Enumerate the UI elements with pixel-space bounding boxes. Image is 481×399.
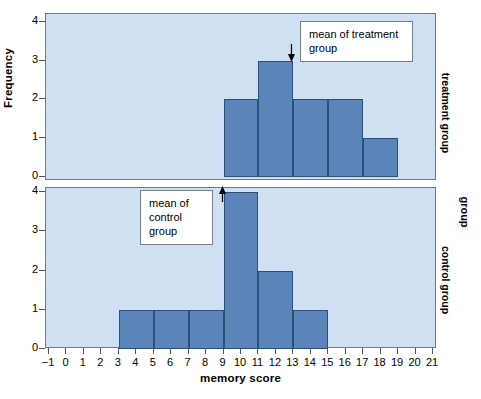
histogram-bar — [189, 310, 224, 349]
x-axis-tick-mark — [83, 348, 84, 354]
y-axis-tick-label: 1 — [12, 302, 38, 314]
panel-control-group — [45, 187, 436, 348]
y-axis-tick-label: 1 — [12, 130, 38, 142]
y-axis-tick-label: 3 — [12, 223, 38, 235]
x-axis-tick-mark — [65, 348, 66, 354]
x-axis-tick-mark — [327, 348, 328, 354]
facet-axis-title: group — [455, 182, 471, 242]
y-axis-tick-label: 2 — [12, 91, 38, 103]
x-axis-tick-mark — [118, 348, 119, 354]
histogram-bar — [363, 138, 398, 177]
x-axis-tick-mark — [362, 348, 363, 354]
panel-control-bars — [46, 188, 435, 347]
x-axis-tick-mark — [223, 348, 224, 354]
y-axis-tick-label: 3 — [12, 53, 38, 65]
histogram-bar — [258, 61, 293, 177]
x-axis-tick-mark — [100, 348, 101, 354]
x-axis-tick-mark — [240, 348, 241, 354]
y-axis-tick-label: 4 — [12, 184, 38, 196]
y-axis-tick-mark — [39, 230, 45, 231]
arrow-up-icon-control-mean — [218, 186, 227, 202]
y-axis-tick-mark — [39, 309, 45, 310]
histogram-bar — [224, 192, 259, 349]
histogram-bar — [154, 310, 189, 349]
histogram-bar — [293, 310, 328, 349]
x-axis-tick-mark — [257, 348, 258, 354]
histogram-bar — [258, 271, 293, 349]
x-axis-tick-mark — [170, 348, 171, 354]
histogram-figure: Frequency memory score group 0123401234−… — [0, 0, 481, 399]
x-axis-tick-mark — [432, 348, 433, 354]
strip-label-control: control group — [438, 235, 452, 325]
y-axis-tick-mark — [39, 270, 45, 271]
y-axis-tick-mark — [39, 60, 45, 61]
histogram-bar — [224, 99, 259, 177]
x-axis-tick-mark — [188, 348, 189, 354]
annotation-mean-control: mean of control group — [140, 190, 213, 245]
histogram-bar — [328, 99, 363, 177]
x-axis-tick-mark — [205, 348, 206, 354]
x-axis-tick-mark — [135, 348, 136, 354]
x-axis-tick-mark — [345, 348, 346, 354]
histogram-bar — [293, 99, 328, 177]
y-axis-tick-mark — [39, 98, 45, 99]
y-axis-tick-mark — [39, 191, 45, 192]
y-axis-title: Frequency — [2, 18, 20, 138]
y-axis-tick-mark — [39, 137, 45, 138]
x-axis-tick-mark — [380, 348, 381, 354]
x-axis-tick-mark — [153, 348, 154, 354]
x-axis-tick-mark — [310, 348, 311, 354]
x-axis-title: memory score — [45, 372, 436, 384]
x-axis-tick-mark — [415, 348, 416, 354]
x-axis-tick-mark — [397, 348, 398, 354]
y-axis-tick-label: 4 — [12, 14, 38, 26]
y-axis-tick-label: 0 — [12, 341, 38, 353]
y-axis-tick-label: 0 — [12, 169, 38, 181]
arrow-down-icon-treatment-mean — [287, 44, 296, 62]
x-axis-tick-mark — [48, 348, 49, 354]
x-axis-tick-mark — [292, 348, 293, 354]
y-axis-tick-mark — [39, 348, 45, 349]
x-axis-tick-label: 21 — [419, 356, 445, 368]
strip-label-treatment: treatment group — [438, 58, 452, 168]
annotation-mean-treatment: mean of treatment group — [300, 21, 413, 62]
x-axis-tick-mark — [275, 348, 276, 354]
y-axis-tick-mark — [39, 176, 45, 177]
y-axis-tick-mark — [39, 21, 45, 22]
histogram-bar — [119, 310, 154, 349]
y-axis-tick-label: 2 — [12, 263, 38, 275]
